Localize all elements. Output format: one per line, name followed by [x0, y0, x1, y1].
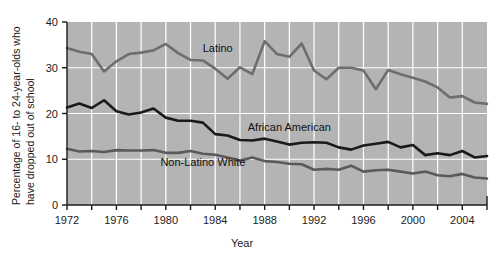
y-axis-title-line1: Percentage of 16- to 24-year-olds who	[10, 26, 22, 205]
x-tick-label: 1996	[351, 214, 375, 226]
x-tick-label: 1988	[252, 214, 276, 226]
x-tick-label: 2004	[450, 214, 474, 226]
x-tick-label: 1976	[104, 214, 128, 226]
y-tick-label: 20	[46, 108, 58, 120]
x-tick-label: 1980	[154, 214, 178, 226]
y-tick-label: 0	[52, 199, 58, 211]
y-axis-title-line2: have dropped out of school	[24, 78, 36, 205]
series-label-non-latino-white: Non-Latino White	[160, 156, 245, 168]
x-axis-title: Year	[231, 237, 254, 249]
x-tick-label: 1972	[55, 214, 79, 226]
series-label-african-american: African American	[248, 121, 331, 133]
x-axis-tick-labels: 197219761980198419881992199620002004	[55, 214, 475, 226]
y-tick-label: 30	[46, 62, 58, 74]
series-label-latino: Latino	[203, 42, 233, 54]
x-tick-label: 1992	[302, 214, 326, 226]
x-tick-label: 1984	[203, 214, 227, 226]
y-tick-label: 40	[46, 16, 58, 28]
x-tick-label: 2000	[401, 214, 425, 226]
line-chart-figure: 010203040 197219761980198419881992199620…	[0, 0, 502, 256]
y-tick-label: 10	[46, 153, 58, 165]
